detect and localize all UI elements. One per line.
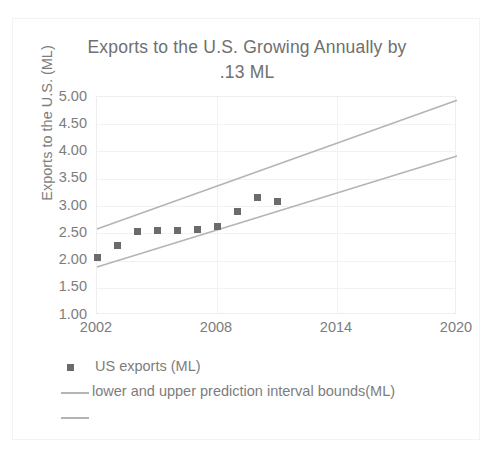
legend-item-unlabeled[interactable] (61, 406, 471, 431)
data-point-marker (134, 228, 141, 235)
y-tick-label: 3.00 (25, 198, 87, 212)
y-tick-label: 2.50 (25, 225, 87, 239)
data-point-marker (214, 223, 221, 230)
data-point-marker (194, 226, 201, 233)
data-point-marker (254, 194, 261, 201)
chart-title: Exports to the U.S. Growing Annually by … (49, 35, 445, 85)
y-tick-label: 4.50 (25, 116, 87, 130)
x-tick-label: 2020 (421, 319, 491, 335)
legend-item-label: US exports (ML) (95, 358, 201, 374)
x-tick-label: 2002 (61, 319, 131, 335)
data-point-marker (234, 208, 241, 215)
y-tick-label: 3.50 (25, 170, 87, 184)
data-point-marker (274, 198, 281, 205)
data-point-marker (154, 227, 161, 234)
legend-item-label: lower and upper prediction interval boun… (92, 383, 395, 399)
y-tick-label: 4.00 (25, 143, 87, 157)
y-tick-label: 5.00 (25, 89, 87, 103)
x-tick-label: 2014 (301, 319, 371, 335)
x-tick-label: 2008 (181, 319, 251, 335)
prediction-interval-lines (97, 97, 457, 315)
data-point-marker (114, 242, 121, 249)
chart-title-line-1: Exports to the U.S. Growing Annually by (87, 37, 406, 57)
upper-bound-line (97, 100, 457, 229)
data-point-marker (94, 254, 101, 261)
data-point-marker (174, 227, 181, 234)
y-tick-label: 2.00 (25, 252, 87, 266)
legend-item-prediction-bounds[interactable]: lower and upper prediction interval boun… (61, 381, 471, 406)
legend-line-icon (61, 417, 89, 419)
plot-area (96, 96, 456, 314)
chart-title-line-2: .13 ML (220, 62, 275, 82)
legend-item-us-exports[interactable]: US exports (ML) (61, 356, 471, 381)
chart-figure: Exports to the U.S. Growing Annually by … (12, 18, 480, 440)
lower-bound-line (97, 156, 457, 267)
chart-legend: US exports (ML) lower and upper predicti… (61, 356, 471, 431)
legend-line-icon (61, 392, 89, 394)
legend-square-marker-icon (67, 364, 74, 371)
y-tick-label: 1.50 (25, 279, 87, 293)
